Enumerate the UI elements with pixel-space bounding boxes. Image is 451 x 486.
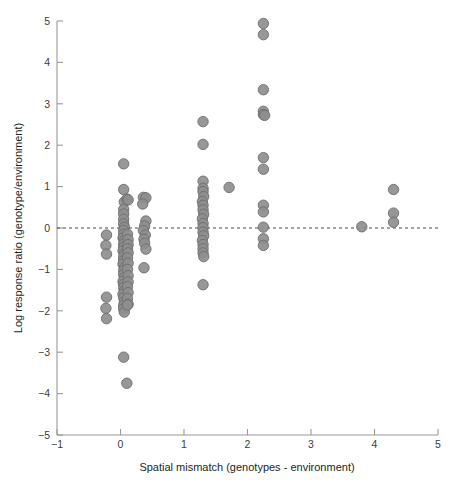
axes-group bbox=[57, 21, 438, 435]
data-point bbox=[258, 152, 268, 162]
x-tick-label: 2 bbox=[245, 438, 251, 450]
data-point bbox=[141, 244, 151, 254]
data-point bbox=[101, 313, 111, 323]
data-point bbox=[357, 222, 367, 232]
x-tick-label: 4 bbox=[372, 438, 378, 450]
y-axis-title: Log response ratio (genotype/environment… bbox=[12, 123, 24, 333]
data-point bbox=[122, 300, 132, 310]
y-tick-label: 0 bbox=[44, 222, 50, 234]
scatter-plot-figure: −1012345 −5−4−3−2−1012345 Spatial mismat… bbox=[0, 0, 451, 486]
x-axis-title: Spatial mismatch (genotypes - environmen… bbox=[139, 461, 354, 473]
data-point bbox=[198, 280, 208, 290]
y-tick-label: 4 bbox=[44, 56, 50, 68]
y-tick-label: 3 bbox=[44, 98, 50, 110]
data-point bbox=[258, 85, 268, 95]
data-point bbox=[118, 352, 128, 362]
y-tick-label: 2 bbox=[44, 139, 50, 151]
data-point bbox=[139, 263, 149, 273]
data-point bbox=[258, 18, 268, 28]
data-point bbox=[101, 230, 111, 240]
data-point bbox=[198, 139, 208, 149]
x-tick-label: −1 bbox=[51, 438, 63, 450]
data-point bbox=[388, 217, 398, 227]
y-tick-label: −3 bbox=[38, 346, 50, 358]
data-point bbox=[258, 240, 268, 250]
y-tick-label: 5 bbox=[44, 15, 50, 27]
y-tick-label: −5 bbox=[38, 429, 50, 441]
data-point bbox=[198, 116, 208, 126]
data-point bbox=[258, 29, 268, 39]
y-tick-label: 1 bbox=[44, 180, 50, 192]
data-point bbox=[224, 182, 234, 192]
data-point bbox=[258, 222, 268, 232]
x-tick-label: 3 bbox=[308, 438, 314, 450]
y-tick-label: −1 bbox=[38, 263, 50, 275]
data-point bbox=[101, 292, 111, 302]
x-tick-label: 0 bbox=[118, 438, 124, 450]
data-point bbox=[118, 184, 128, 194]
data-point bbox=[118, 159, 128, 169]
data-point bbox=[388, 184, 398, 194]
scatter-plot-svg: −1012345 −5−4−3−2−1012345 Spatial mismat… bbox=[0, 0, 451, 486]
data-point bbox=[198, 251, 208, 261]
y-tick-label: −4 bbox=[38, 387, 50, 399]
data-point bbox=[101, 303, 111, 313]
data-point bbox=[123, 195, 133, 205]
x-tick-label: 5 bbox=[435, 438, 441, 450]
data-point bbox=[122, 378, 132, 388]
data-point bbox=[101, 249, 111, 259]
data-point bbox=[258, 207, 268, 217]
x-tick-label: 1 bbox=[181, 438, 187, 450]
y-tick-label: −2 bbox=[38, 305, 50, 317]
data-point bbox=[259, 110, 269, 120]
data-point bbox=[258, 164, 268, 174]
data-points-group bbox=[101, 18, 399, 388]
x-ticks-group: −1012345 bbox=[51, 429, 441, 450]
data-point bbox=[138, 199, 148, 209]
